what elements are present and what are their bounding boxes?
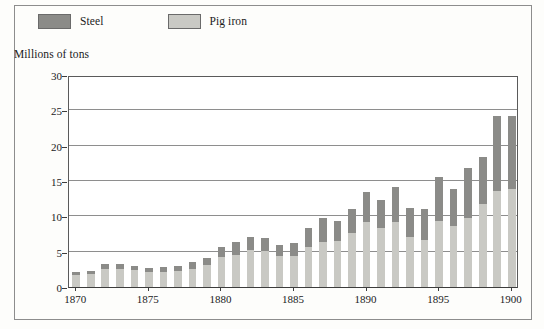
bar-segment-pig-iron <box>174 271 182 287</box>
legend-swatch-pig-iron-icon <box>168 14 201 29</box>
bar-segment-pig-iron <box>101 269 109 287</box>
bar-group <box>290 243 298 287</box>
bar-segment-pig-iron <box>87 274 95 287</box>
bar-segment-steel <box>305 228 313 246</box>
bar-segment-steel <box>290 243 298 256</box>
x-tick-label: 1870 <box>64 293 86 305</box>
bar-segment-steel <box>232 242 240 255</box>
bar-segment-steel <box>131 266 139 270</box>
legend-entry-pig-iron: Pig iron <box>168 14 248 29</box>
y-tick-label: 25 <box>36 105 62 117</box>
bar-segment-pig-iron <box>450 226 458 287</box>
bar-group <box>72 272 80 287</box>
bar-group <box>406 208 414 287</box>
bar-segment-pig-iron <box>145 272 153 287</box>
bar-group <box>116 264 124 287</box>
y-tick-mark <box>62 76 67 77</box>
x-tick-label: 1880 <box>209 293 231 305</box>
bar-segment-steel <box>174 266 182 271</box>
bar-segment-pig-iron <box>189 269 197 287</box>
bar-group <box>87 271 95 287</box>
y-tick-mark <box>62 182 67 183</box>
bar-segment-steel <box>392 187 400 222</box>
bar-group <box>319 218 327 287</box>
chart-figure: Steel Pig iron Millions of tons 05101520… <box>0 0 544 329</box>
bar-segment-steel <box>101 264 109 268</box>
bar-group <box>232 242 240 287</box>
x-tick-label: 1890 <box>355 293 377 305</box>
bar-group <box>464 168 472 287</box>
bar-segment-steel <box>247 237 255 250</box>
bar-segment-steel <box>464 168 472 219</box>
bar-segment-steel <box>261 238 269 251</box>
x-tick-mark <box>75 287 76 291</box>
bar-group <box>450 189 458 287</box>
y-axis-labels: 051015202530 <box>34 76 62 288</box>
bar-group <box>261 238 269 287</box>
bar-group <box>145 268 153 287</box>
bar-segment-steel <box>493 116 501 191</box>
bar-segment-steel <box>145 268 153 272</box>
bar-group <box>131 266 139 287</box>
bar-segment-steel <box>377 200 385 228</box>
bar-segment-pig-iron <box>334 241 342 287</box>
legend-swatch-steel-icon <box>38 14 71 29</box>
bar-segment-pig-iron <box>406 237 414 287</box>
bar-segment-pig-iron <box>319 242 327 287</box>
y-tick-mark <box>62 111 67 112</box>
bar-segment-steel <box>72 272 80 275</box>
y-tick-mark <box>62 217 67 218</box>
bar-segment-pig-iron <box>276 256 284 287</box>
bar-group <box>508 116 516 287</box>
bar-segment-pig-iron <box>305 247 313 287</box>
bar-segment-pig-iron <box>392 222 400 287</box>
bar-segment-steel <box>160 267 168 272</box>
bar-group <box>479 157 487 287</box>
x-tick-mark <box>366 287 367 291</box>
bar-group <box>348 209 356 287</box>
y-tick-mark <box>62 288 67 289</box>
bar-segment-pig-iron <box>131 270 139 287</box>
bar-segment-pig-iron <box>247 250 255 287</box>
bar-segment-steel <box>479 157 487 204</box>
bar-segment-steel <box>276 245 284 256</box>
bar-segment-pig-iron <box>232 255 240 288</box>
x-tick-mark <box>438 287 439 291</box>
bar-group <box>101 264 109 287</box>
x-tick-label: 1895 <box>427 293 449 305</box>
legend-label-pig-iron: Pig iron <box>210 15 248 27</box>
bar-segment-steel <box>319 218 327 242</box>
x-tick-mark <box>220 287 221 291</box>
gridline <box>69 145 517 146</box>
bar-group <box>493 116 501 287</box>
bar-group <box>435 177 443 287</box>
bar-segment-pig-iron <box>363 222 371 287</box>
bar-segment-pig-iron <box>464 218 472 287</box>
bar-group <box>276 245 284 287</box>
bar-segment-steel <box>508 116 516 189</box>
bar-group <box>377 200 385 287</box>
bar-segment-pig-iron <box>348 233 356 287</box>
bar-segment-steel <box>189 262 197 268</box>
bar-group <box>247 237 255 287</box>
bar-group <box>218 247 226 287</box>
bar-segment-pig-iron <box>290 256 298 287</box>
y-tick-label: 15 <box>36 176 62 188</box>
legend-entry-steel: Steel <box>38 14 104 29</box>
bar-segment-steel <box>116 264 124 269</box>
bar-segment-steel <box>406 208 414 237</box>
bar-segment-pig-iron <box>435 221 443 287</box>
bar-segment-steel <box>450 189 458 226</box>
bar-segment-pig-iron <box>160 272 168 287</box>
legend-label-steel: Steel <box>80 15 104 27</box>
bar-group <box>392 187 400 287</box>
bar-segment-steel <box>334 221 342 241</box>
plot-area <box>68 76 518 288</box>
bar-segment-steel <box>203 258 211 265</box>
y-tick-label: 10 <box>36 211 62 223</box>
x-tick-mark <box>511 287 512 291</box>
y-tick-mark <box>62 253 67 254</box>
bar-group <box>305 228 313 287</box>
bar-segment-pig-iron <box>203 265 211 287</box>
bar-group <box>334 221 342 287</box>
